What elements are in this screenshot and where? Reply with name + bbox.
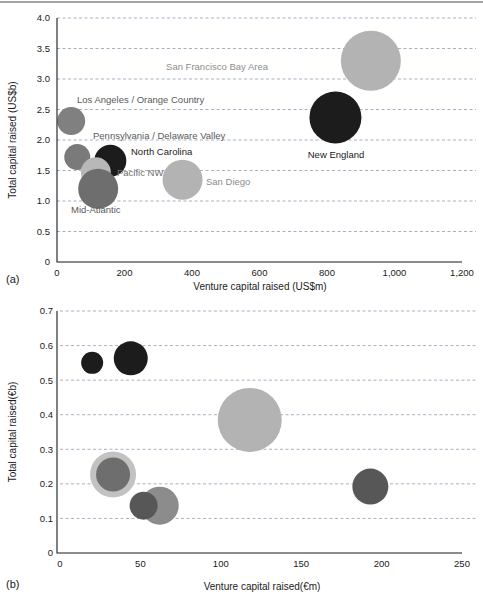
x-tick-label: 1,200 <box>450 267 474 278</box>
y-tick-label: 0.1 <box>40 513 53 524</box>
x-tick-label: 150 <box>293 558 309 569</box>
x-tick-label: 0 <box>54 267 59 278</box>
y-tick-label: 2.0 <box>37 134 50 145</box>
bubble-label: Los Angeles / Orange Country <box>77 94 205 105</box>
bubble-marker <box>309 91 361 143</box>
panel-a-scatter-chart: San Francisco Bay AreaNew EnglandLos Ang… <box>0 0 483 300</box>
bubble-label: Mid-Atlantic <box>71 204 121 215</box>
bubble-marker <box>352 469 388 505</box>
x-tick-label: 1,000 <box>383 267 407 278</box>
panel-a-gridlines <box>57 18 476 232</box>
y-tick-label: 0.7 <box>40 305 53 316</box>
x-tick-label: 100 <box>213 558 229 569</box>
panel-b-y-axis-label: Total capital raised(€b) <box>7 382 18 483</box>
bubble-marker <box>78 169 118 209</box>
y-tick-label: 0.4 <box>40 409 53 420</box>
y-tick-label: 3.0 <box>37 73 50 84</box>
x-tick-label: 200 <box>117 267 133 278</box>
bubble-marker <box>114 341 148 375</box>
bubble-label: New England <box>308 149 365 160</box>
x-tick-label: 250 <box>454 558 470 569</box>
y-tick-label: 3.5 <box>37 43 50 54</box>
panel-a-x-axis-label: Venture capital raised (US$m) <box>193 281 326 292</box>
x-tick-label: 800 <box>319 267 335 278</box>
panel-b-bubbles <box>81 341 388 524</box>
y-tick-label: 0.2 <box>40 478 53 489</box>
panel-b-x-ticklabels: 050100150200250 <box>57 558 470 569</box>
panel-b-y-ticklabels: 00.10.20.30.40.50.60.7 <box>40 305 53 558</box>
panel-a-id: (a) <box>6 273 19 285</box>
bubble-label: San Francisco Bay Area <box>166 61 269 72</box>
bubble-marker <box>57 107 85 135</box>
panel-b-scatter-chart: IrelandNetherlandsUnited KingdomFranceBe… <box>0 300 483 603</box>
bubble-marker <box>218 388 282 452</box>
x-tick-label: 600 <box>252 267 268 278</box>
y-tick-label: 0.6 <box>40 340 53 351</box>
y-tick-label: 0.5 <box>40 375 53 386</box>
bubble-marker <box>130 492 158 520</box>
y-tick-label: 1.5 <box>37 165 50 176</box>
y-tick-label: 1.0 <box>37 195 50 206</box>
panel-a-x-ticklabels: 02004006008001,0001,200 <box>54 267 474 278</box>
bubble-marker <box>96 458 130 492</box>
x-tick-label: 0 <box>57 558 62 569</box>
panel-b-svg: IrelandNetherlandsUnited KingdomFranceBe… <box>0 300 483 603</box>
x-tick-label: 50 <box>135 558 146 569</box>
y-tick-label: 2.5 <box>37 104 50 115</box>
x-tick-label: 400 <box>184 267 200 278</box>
bubble-marker <box>163 160 203 200</box>
panel-a-y-ticklabels: 00.51.01.52.02.53.03.54.0 <box>37 12 50 267</box>
panel-b-id: (b) <box>6 578 19 590</box>
bubble-label: Pennsylvania / Delaware Valley <box>93 130 226 141</box>
panel-a-y-axis-label: Total capital raised (US$b) <box>7 81 18 198</box>
y-tick-label: 0 <box>45 256 50 267</box>
y-tick-label: 0 <box>48 547 53 558</box>
y-tick-label: 0.5 <box>37 226 50 237</box>
bubble-label: Pacific NW <box>117 167 163 178</box>
bubble-label: San Diego <box>206 176 250 187</box>
y-tick-label: 0.3 <box>40 444 53 455</box>
y-tick-label: 4.0 <box>37 12 50 23</box>
x-tick-label: 200 <box>374 558 390 569</box>
panel-a-svg: San Francisco Bay AreaNew EnglandLos Ang… <box>0 0 483 300</box>
panel-b-x-axis-label: Venture capital raised(€m) <box>204 581 321 592</box>
bubble-label: North Carolina <box>131 146 193 157</box>
bubble-marker <box>341 31 401 91</box>
bubble-marker <box>81 352 103 374</box>
